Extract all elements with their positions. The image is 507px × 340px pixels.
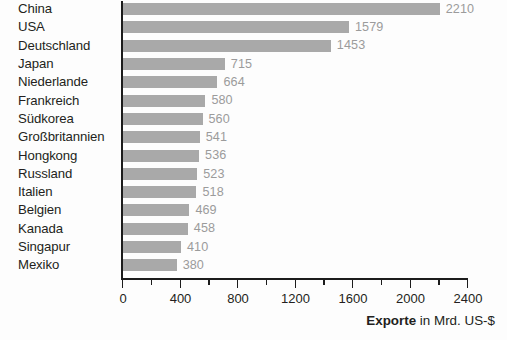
- bar-value-label: 560: [209, 113, 230, 126]
- x-tick-label: 1600: [339, 291, 368, 306]
- bar-value-label: 1579: [355, 21, 383, 34]
- category-label: USA: [18, 21, 45, 34]
- x-axis-title: Exporte in Mrd. US-$: [366, 313, 495, 328]
- bar-chart: China2210USA1579Deutschland1453Japan715N…: [0, 0, 507, 340]
- category-label: Italien: [18, 186, 53, 199]
- x-tick-minor: [323, 280, 324, 285]
- chart-row: Japan715: [0, 55, 507, 73]
- x-tick-major: [295, 280, 296, 288]
- x-tick-major: [237, 280, 238, 288]
- category-label: Singapur: [18, 240, 70, 253]
- chart-row: Frankreich580: [0, 91, 507, 109]
- bar: [122, 259, 177, 271]
- bar-value-label: 664: [223, 76, 244, 89]
- bar: [122, 186, 196, 198]
- bar-value-label: 536: [205, 149, 226, 162]
- bar-group: 518: [122, 186, 224, 198]
- bar: [122, 40, 331, 52]
- bar-value-label: 2210: [446, 3, 474, 16]
- bar-value-label: 541: [206, 131, 227, 144]
- x-tick-label: 400: [170, 291, 192, 306]
- x-tick-major: [352, 280, 353, 288]
- bar: [122, 241, 181, 253]
- x-tick-major: [467, 280, 468, 288]
- category-label: Mexiko: [18, 259, 59, 272]
- bar-value-label: 469: [195, 204, 216, 217]
- bar: [122, 131, 200, 143]
- bar-value-label: 523: [203, 168, 224, 181]
- bar-group: 580: [122, 95, 233, 107]
- bar-value-label: 715: [231, 58, 252, 71]
- bar-group: 2210: [122, 3, 474, 15]
- chart-row: Südkorea560: [0, 110, 507, 128]
- x-tick-minor: [208, 280, 209, 285]
- y-axis-line: [121, 1, 123, 278]
- bar: [122, 168, 197, 180]
- category-label: Deutschland: [18, 39, 90, 52]
- x-tick-label: 2400: [454, 291, 483, 306]
- x-tick-label: 0: [119, 291, 126, 306]
- bar-group: 560: [122, 113, 230, 125]
- bar-group: 410: [122, 241, 208, 253]
- bar: [122, 95, 205, 107]
- category-label: Russland: [18, 167, 72, 180]
- chart-rows: China2210USA1579Deutschland1453Japan715N…: [0, 0, 507, 274]
- category-label: Kanada: [18, 222, 63, 235]
- chart-row: Niederlande664: [0, 73, 507, 91]
- chart-row: USA1579: [0, 18, 507, 36]
- chart-row: Italien518: [0, 183, 507, 201]
- x-tick-label: 2000: [396, 291, 425, 306]
- category-label: Südkorea: [18, 112, 74, 125]
- bar-group: 469: [122, 204, 217, 216]
- bar: [122, 113, 203, 125]
- x-tick-minor: [438, 280, 439, 285]
- x-axis-title-bold: Exporte: [366, 313, 416, 328]
- bar-value-label: 380: [183, 259, 204, 272]
- bar-group: 380: [122, 259, 204, 271]
- bar-value-label: 518: [202, 186, 223, 199]
- category-label: Frankreich: [18, 94, 79, 107]
- bar: [122, 21, 349, 33]
- category-label: Niederlande: [18, 76, 88, 89]
- bar-group: 536: [122, 150, 226, 162]
- chart-row: Singapur410: [0, 238, 507, 256]
- chart-row: Russland523: [0, 165, 507, 183]
- x-tick-label: 1200: [281, 291, 310, 306]
- bar-value-label: 410: [187, 241, 208, 254]
- chart-row: Mexiko380: [0, 256, 507, 274]
- x-tick-label: 800: [227, 291, 249, 306]
- bar-group: 541: [122, 131, 227, 143]
- x-tick-major: [410, 280, 411, 288]
- chart-row: China2210: [0, 0, 507, 18]
- bar-group: 715: [122, 58, 252, 70]
- x-tick-major: [180, 280, 181, 288]
- bar-value-label: 458: [194, 222, 215, 235]
- bar-group: 1579: [122, 21, 383, 33]
- x-tick-minor: [151, 280, 152, 285]
- bar-value-label: 1453: [337, 39, 365, 52]
- bar-group: 664: [122, 76, 245, 88]
- chart-row: Kanada458: [0, 220, 507, 238]
- bar: [122, 223, 188, 235]
- bar-group: 458: [122, 223, 215, 235]
- category-label: Japan: [18, 57, 53, 70]
- category-label: Hongkong: [18, 149, 77, 162]
- chart-row: Großbritannien541: [0, 128, 507, 146]
- bar: [122, 58, 225, 70]
- chart-row: Deutschland1453: [0, 37, 507, 55]
- chart-row: Hongkong536: [0, 146, 507, 164]
- x-tick-minor: [381, 280, 382, 285]
- x-axis-title-rest: in Mrd. US-$: [416, 313, 495, 328]
- bar: [122, 150, 199, 162]
- category-label: Belgien: [18, 204, 61, 217]
- bar-group: 523: [122, 168, 224, 180]
- bar-value-label: 580: [211, 94, 232, 107]
- category-label: Großbritannien: [18, 131, 105, 144]
- bar: [122, 204, 189, 216]
- category-label: China: [18, 3, 52, 16]
- bar-group: 1453: [122, 40, 365, 52]
- x-tick-major: [122, 280, 123, 288]
- chart-row: Belgien469: [0, 201, 507, 219]
- bar: [122, 76, 217, 88]
- bar: [122, 3, 440, 15]
